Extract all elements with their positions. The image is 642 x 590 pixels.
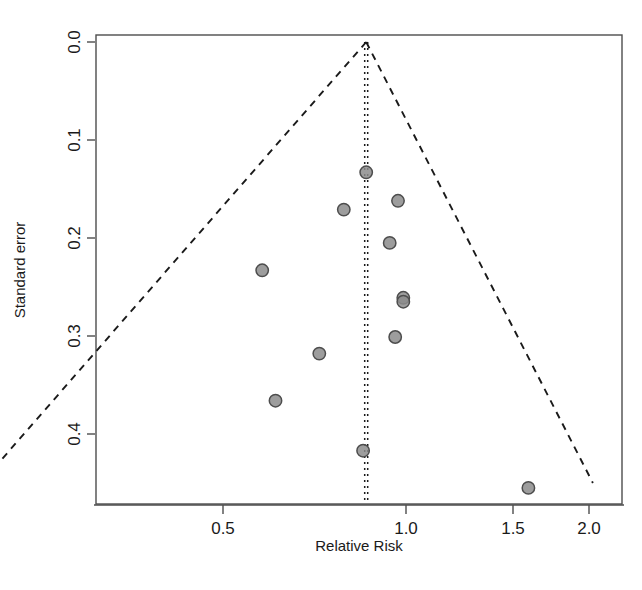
y-axis-tick-label: 0.1: [65, 128, 84, 152]
funnel-plot-figure: 0.51.01.52.0 0.00.10.20.30.4 Relative Ri…: [0, 0, 642, 590]
y-axis-tick-label: 0.3: [65, 324, 84, 348]
data-point: [360, 166, 372, 178]
funnel-plot-svg: 0.51.01.52.0 0.00.10.20.30.4 Relative Ri…: [0, 0, 642, 590]
data-point: [357, 445, 369, 457]
data-point: [389, 331, 401, 343]
x-axis-tick-label: 0.5: [211, 519, 235, 538]
data-point: [313, 347, 325, 359]
y-axis-tick-label: 0.2: [65, 226, 84, 250]
data-point: [269, 395, 281, 407]
x-axis-tick-label: 1.5: [501, 519, 525, 538]
data-point: [338, 203, 350, 215]
data-point: [392, 195, 404, 207]
x-axis-tick-label: 1.0: [394, 519, 418, 538]
x-axis-tick-label: 2.0: [577, 519, 601, 538]
y-axis-title: Standard error: [11, 222, 28, 319]
y-axis-tick-label: 0.4: [65, 422, 84, 446]
y-axis-tick-label: 0.0: [65, 30, 84, 54]
data-point: [522, 482, 534, 494]
data-point: [256, 264, 268, 276]
data-point: [397, 296, 409, 308]
x-axis-title: Relative Risk: [315, 537, 403, 554]
data-point: [384, 237, 396, 249]
